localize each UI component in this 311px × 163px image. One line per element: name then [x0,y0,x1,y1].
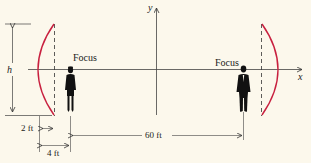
x-axis-label: x [298,72,302,82]
depth-label: 2 ft [21,124,33,133]
right-dish [262,24,279,116]
depth-dimension-2ft [40,116,54,152]
focus-label-left: Focus [73,53,97,63]
separation-label: 60 ft [145,131,162,140]
man-silhouette-icon [237,66,251,112]
focus-label-right: Focus [215,58,239,68]
woman-silhouette-icon [65,67,76,113]
focus-dimension-4ft [41,116,71,152]
y-axis-label: y [148,3,152,13]
left-dish [38,24,55,116]
height-label: h [7,65,12,75]
focus-offset-label: 4 ft [47,149,59,158]
